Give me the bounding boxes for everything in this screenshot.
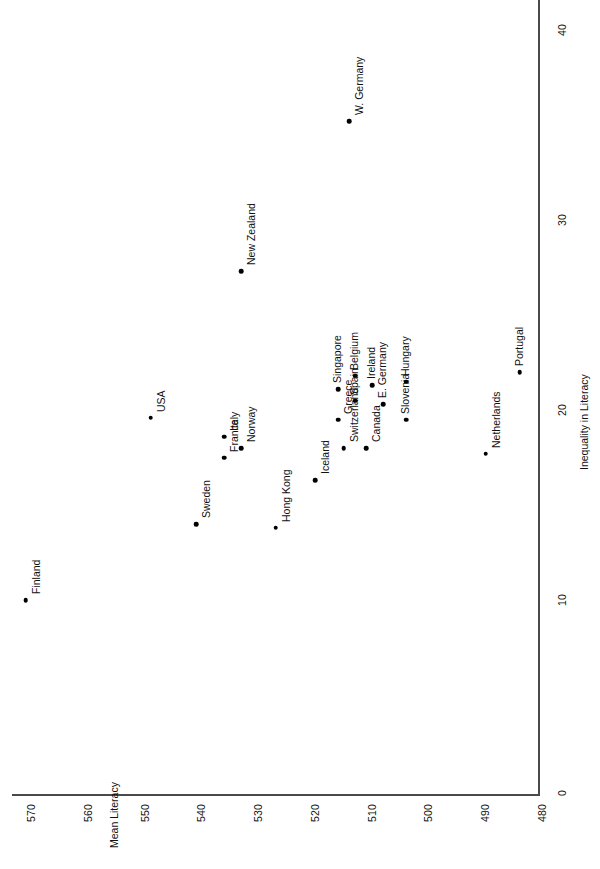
data-point: [381, 402, 386, 407]
mean-literacy-tick-500: 500: [422, 804, 434, 822]
data-point-label: Netherlands: [490, 391, 502, 448]
mean-literacy-tick-570: 570: [25, 804, 37, 822]
data-point-label: Singapore: [331, 335, 343, 383]
data-point-label: Spain: [348, 368, 360, 395]
data-point: [23, 598, 28, 603]
scatter-chart: Mean Literacy Inequality in Literacy 480…: [0, 0, 600, 869]
data-point: [239, 269, 244, 274]
data-point: [222, 455, 227, 460]
mean-literacy-axis-line: [12, 794, 540, 796]
mean-literacy-tick-560: 560: [82, 804, 94, 822]
data-point-label: Slovenia: [399, 373, 411, 413]
data-point-label: Canada: [370, 405, 382, 442]
mean-literacy-axis-title: Mean Literacy: [108, 782, 120, 848]
data-point: [353, 398, 358, 403]
data-point-label: New Zealand: [245, 203, 257, 265]
data-point: [517, 370, 522, 375]
data-point-label: Switzerland: [348, 388, 360, 442]
data-point-label: USA: [155, 390, 167, 412]
data-point: [483, 451, 488, 456]
data-point: [336, 387, 341, 392]
data-point-label: E. Germany: [376, 342, 388, 398]
data-point: [148, 415, 153, 420]
data-point: [273, 526, 278, 531]
data-point: [194, 522, 199, 527]
inequality-tick-10: 10: [556, 594, 568, 606]
data-point: [336, 417, 341, 422]
inequality-axis-title: Inequality in Literacy: [578, 374, 590, 470]
data-point-label: Iceland: [319, 440, 331, 474]
mean-literacy-tick-520: 520: [309, 804, 321, 822]
data-point: [370, 383, 375, 388]
data-point: [313, 478, 318, 483]
data-point-label: Hungary: [399, 336, 411, 376]
data-point-label: Belgium: [348, 332, 360, 370]
mean-literacy-tick-480: 480: [536, 804, 548, 822]
data-point-label: Sweden: [200, 480, 212, 518]
inequality-tick-0: 0: [556, 790, 568, 796]
mean-literacy-tick-530: 530: [252, 804, 264, 822]
mean-literacy-tick-540: 540: [195, 804, 207, 822]
data-point-label: Hong Kong: [280, 469, 292, 522]
mean-literacy-tick-490: 490: [479, 804, 491, 822]
data-point-label: Finland: [30, 560, 42, 594]
inequality-axis-line: [538, 0, 540, 796]
data-point-label: Portugal: [513, 327, 525, 366]
data-point: [222, 434, 227, 439]
inequality-tick-40: 40: [556, 24, 568, 36]
data-point: [404, 417, 409, 422]
data-point: [239, 446, 244, 451]
data-point: [341, 446, 346, 451]
inequality-tick-30: 30: [556, 214, 568, 226]
data-point-label: Norway: [245, 406, 257, 442]
data-point: [347, 119, 352, 124]
mean-literacy-tick-550: 550: [139, 804, 151, 822]
mean-literacy-tick-510: 510: [366, 804, 378, 822]
data-point-label: W. Germany: [353, 57, 365, 115]
inequality-tick-20: 20: [556, 404, 568, 416]
data-point: [364, 446, 369, 451]
